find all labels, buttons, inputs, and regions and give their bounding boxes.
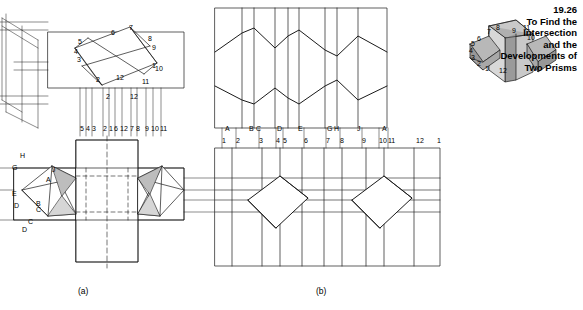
point-label-pictorial-small-9: 2 (477, 60, 481, 67)
point-label-dev-bottom-numbers-7: 8 (340, 137, 344, 144)
point-label-front-view-upper-6: 3 (77, 56, 81, 63)
point-label-dev-bottom-numbers-6: 7 (326, 137, 330, 144)
point-label-dev-bottom-numbers-10: 11 (388, 137, 395, 144)
point-label-dev-bottom-numbers-5: 6 (304, 137, 308, 144)
point-label-front-view-upper-8: 10 (155, 65, 163, 72)
point-label-dev-top-letters-1: B (249, 125, 254, 132)
development-upper (215, 8, 387, 128)
point-label-front-view-upper-5: 9 (152, 44, 156, 51)
point-label-top-view-ruler-11: 11 (160, 125, 167, 132)
point-label-dev-top-letters-6: H (334, 125, 339, 132)
figure-caption: 19.26 To Find the Intersection and the D… (465, 4, 577, 73)
figure-number: 19.26 (465, 4, 577, 16)
point-label-pictorial-small-5: 5 (471, 40, 475, 47)
point-label-side-view-left-4: E (12, 190, 17, 197)
point-label-top-view-ruler-2: 3 (92, 125, 96, 132)
point-label-dev-bottom-numbers-4: 5 (283, 137, 287, 144)
point-label-side-view-left-0: H (20, 152, 25, 159)
point-label-dev-bottom-numbers-3: 4 (276, 137, 280, 144)
point-label-dev-top-letters-2: C (256, 125, 261, 132)
point-label-dev-bottom-numbers-8: 9 (362, 137, 366, 144)
point-label-side-view-left-7: B (36, 200, 41, 207)
caption-line-1: To Find the (465, 16, 577, 28)
top-view-cross (0, 136, 214, 268)
point-label-pictorial-small-0: 7 (487, 28, 491, 35)
point-label-side-view-left-5: D (14, 202, 19, 209)
point-label-pictorial-small-1: 8 (496, 24, 500, 31)
point-label-top-view-ruler-9: 9 (145, 125, 149, 132)
point-label-top-view-ruler-3: 2 (103, 125, 107, 132)
point-label-dev-bottom-numbers-1: 2 (236, 137, 240, 144)
caption-line-3: and the (465, 39, 577, 51)
point-label-front-view-upper-10: 12 (116, 74, 124, 81)
point-label-front-view-upper-11: 11 (142, 78, 149, 85)
point-label-side-view-left-8: C (28, 218, 33, 225)
point-label-top-view-ruler-5: 6 (114, 125, 118, 132)
point-label-front-view-upper-0: 5 (78, 38, 82, 45)
point-label-front-view-upper-12: 2 (106, 93, 110, 100)
point-label-side-view-left-2: J (52, 166, 56, 173)
point-label-dev-top-letters-7: J (357, 125, 361, 132)
development-lower (215, 148, 440, 266)
caption-line-2: Intersection (465, 27, 577, 39)
point-label-top-view-ruler-10: 10 (151, 125, 159, 132)
figure-stage: 19.26 To Find the Intersection and the D… (0, 0, 583, 310)
point-label-front-view-upper-2: 7 (129, 24, 133, 31)
point-label-side-view-left-3: A (46, 176, 51, 183)
point-label-front-view-upper-3: 4 (74, 48, 78, 55)
point-label-pictorial-small-7: 10 (527, 34, 535, 41)
point-label-pictorial-small-11: 12 (499, 67, 507, 74)
point-label-pictorial-small-10: 1 (485, 65, 489, 72)
point-label-dev-bottom-numbers-0: 1 (222, 137, 226, 144)
point-label-top-view-ruler-8: 8 (136, 125, 140, 132)
point-label-dev-bottom-numbers-11: 12 (416, 137, 424, 144)
point-label-dev-bottom-numbers-12: 1 (437, 137, 441, 144)
point-label-dev-top-letters-5: G (327, 125, 332, 132)
point-label-front-view-upper-4: 8 (148, 35, 152, 42)
point-label-pictorial-small-8: 3 (471, 54, 475, 61)
sublabel-a: (a) (78, 286, 88, 296)
point-label-pictorial-small-4: 6 (477, 35, 481, 42)
caption-line-4: Developments of (465, 50, 577, 62)
point-label-pictorial-small-6: 4 (469, 47, 473, 54)
point-label-top-view-ruler-6: 12 (120, 125, 128, 132)
point-label-side-view-left-1: G (12, 164, 17, 171)
point-label-side-view-left-9: D (22, 226, 27, 233)
caption-line-5: Two Prisms (465, 62, 577, 74)
point-label-top-view-ruler-1: 4 (86, 125, 90, 132)
point-label-front-view-upper-9: 2 (96, 76, 100, 83)
point-label-dev-top-letters-4: E (298, 125, 303, 132)
point-label-side-view-left-6: C (36, 206, 41, 213)
point-label-dev-top-letters-0: A (225, 125, 230, 132)
point-label-front-view-upper-1: 6 (111, 29, 115, 36)
sublabel-b: (b) (316, 286, 326, 296)
point-label-dev-bottom-numbers-9: 10 (379, 137, 387, 144)
point-label-top-view-ruler-7: 7 (130, 125, 134, 132)
point-label-top-view-ruler-0: 5 (80, 125, 84, 132)
point-label-pictorial-small-3: 11 (523, 24, 530, 31)
point-label-dev-top-letters-8: A (382, 125, 387, 132)
point-label-top-view-ruler-4: 1 (109, 125, 113, 132)
point-label-dev-bottom-numbers-2: 3 (259, 137, 263, 144)
point-label-dev-top-letters-3: D (277, 125, 282, 132)
point-label-pictorial-small-2: 9 (512, 27, 516, 34)
point-label-front-view-upper-13: 12 (130, 93, 138, 100)
